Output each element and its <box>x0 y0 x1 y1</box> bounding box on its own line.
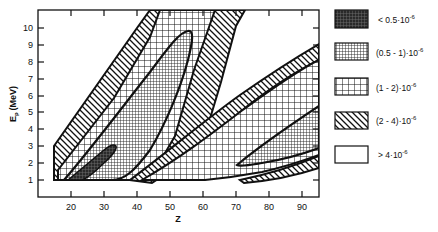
y-tick-labels: 1 2 3 4 5 6 7 8 9 10 <box>23 23 33 185</box>
plot-regions <box>54 10 319 183</box>
svg-text:10: 10 <box>23 23 33 33</box>
x-tick-labels: 20 30 40 50 60 70 80 90 <box>66 202 307 212</box>
svg-text:Ep(MeV): Ep(MeV) <box>8 86 19 122</box>
svg-text:4: 4 <box>28 124 33 134</box>
svg-text:(2 - 4)·10-6: (2 - 4)·10-6 <box>376 115 417 126</box>
svg-text:90: 90 <box>297 202 307 212</box>
legend-item-1-2: (1 - 2)·10-6 <box>335 78 417 95</box>
svg-text:8: 8 <box>28 57 33 67</box>
y-axis-title: Ep(MeV) <box>8 86 19 122</box>
svg-text:40: 40 <box>132 202 142 212</box>
svg-text:5: 5 <box>28 107 33 117</box>
svg-text:> 4·10-6: > 4·10-6 <box>378 149 408 160</box>
chart-figure: 1 2 3 4 5 6 7 8 9 10 20 30 40 50 60 70 8… <box>0 0 438 232</box>
svg-text:9: 9 <box>28 40 33 50</box>
svg-text:50: 50 <box>165 202 175 212</box>
svg-text:(0.5 - 1)·10-6: (0.5 - 1)·10-6 <box>376 47 424 58</box>
svg-text:30: 30 <box>99 202 109 212</box>
legend-item-gt-4: > 4·10-6 <box>335 146 408 163</box>
svg-text:3: 3 <box>28 141 33 151</box>
legend: < 0.5·10-6 (0.5 - 1)·10-6 (1 - 2)·10-6 (… <box>335 10 424 163</box>
svg-text:1: 1 <box>28 175 33 185</box>
svg-text:< 0.5·10-6: < 0.5·10-6 <box>378 14 415 25</box>
svg-text:7: 7 <box>28 74 33 84</box>
x-axis-title: Z <box>175 214 181 224</box>
svg-text:6: 6 <box>28 91 33 101</box>
legend-item-2-4: (2 - 4)·10-6 <box>335 112 417 129</box>
svg-text:20: 20 <box>66 202 76 212</box>
legend-item-lt-0-5: < 0.5·10-6 <box>335 10 415 28</box>
svg-text:60: 60 <box>198 202 208 212</box>
svg-text:(1 - 2)·10-6: (1 - 2)·10-6 <box>376 82 417 93</box>
svg-text:2: 2 <box>28 158 33 168</box>
legend-item-0-5-1: (0.5 - 1)·10-6 <box>335 43 424 60</box>
svg-text:80: 80 <box>264 202 274 212</box>
svg-text:70: 70 <box>231 202 241 212</box>
